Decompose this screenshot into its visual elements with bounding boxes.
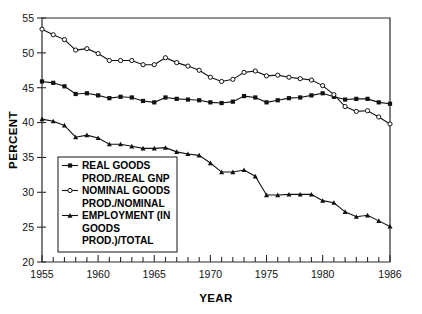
- data-point: [141, 63, 145, 67]
- data-point: [208, 100, 212, 104]
- data-point: [62, 38, 66, 42]
- data-point: [85, 91, 89, 95]
- data-point: [118, 95, 122, 99]
- data-point: [96, 93, 100, 97]
- data-point: [354, 97, 358, 101]
- y-tick-label: 55: [22, 12, 34, 24]
- y-tick-label: 25: [22, 221, 34, 233]
- data-point: [253, 174, 258, 179]
- data-point: [253, 95, 257, 99]
- data-point: [163, 56, 167, 60]
- data-point: [152, 100, 156, 104]
- data-point: [107, 96, 111, 100]
- data-point: [276, 98, 280, 102]
- x-tick-label: 1975: [255, 268, 279, 280]
- data-point: [298, 77, 302, 81]
- data-point: [388, 102, 392, 106]
- data-point: [208, 75, 212, 79]
- data-point: [365, 109, 369, 113]
- legend-marker-open-circle: [68, 188, 72, 192]
- x-tick-label: 1965: [143, 268, 167, 280]
- x-tick-label: 1960: [86, 268, 110, 280]
- data-point: [264, 74, 268, 78]
- data-point: [175, 61, 179, 65]
- data-point: [343, 97, 347, 101]
- series-2: [40, 27, 392, 126]
- data-point: [186, 97, 190, 101]
- series-1: [40, 79, 392, 106]
- data-point: [242, 70, 246, 74]
- data-point: [118, 58, 122, 62]
- legend-marker-filled-square: [68, 163, 72, 167]
- data-point: [74, 92, 78, 96]
- data-point: [85, 47, 89, 51]
- series-line: [42, 29, 390, 124]
- legend: REAL GOODSPROD./REAL GNPNOMINAL GOODSPRO…: [58, 157, 177, 252]
- y-axis-title: PERCENT: [7, 111, 19, 169]
- data-point: [220, 79, 224, 83]
- y-tick-label: 45: [22, 82, 34, 94]
- data-point: [287, 96, 291, 100]
- data-point: [377, 100, 381, 104]
- y-tick-label: 30: [22, 186, 34, 198]
- data-point: [51, 81, 55, 85]
- data-point: [253, 69, 257, 73]
- x-tick-label: 1955: [30, 268, 54, 280]
- data-point: [276, 73, 280, 77]
- data-point: [354, 109, 358, 113]
- data-point: [40, 79, 44, 83]
- data-point: [186, 64, 190, 68]
- x-tick-label: 1980: [311, 268, 335, 280]
- data-point: [298, 95, 302, 99]
- legend-label: REAL GOODS: [82, 160, 151, 171]
- data-point: [130, 58, 134, 62]
- data-point: [231, 77, 235, 81]
- data-point: [51, 33, 55, 37]
- y-tick-label: 20: [22, 256, 34, 268]
- legend-label: NOMINAL GOODS: [82, 185, 170, 196]
- x-tick-label: 1970: [199, 268, 223, 280]
- data-point: [197, 68, 201, 72]
- data-point: [175, 97, 179, 101]
- data-point: [377, 115, 381, 119]
- x-axis-title: YEAR: [199, 292, 233, 304]
- data-point: [388, 122, 392, 126]
- data-point: [74, 48, 78, 52]
- data-point: [321, 84, 325, 88]
- data-point: [365, 97, 369, 101]
- data-point: [264, 100, 268, 104]
- data-point: [107, 58, 111, 62]
- line-chart: 2025303540455055195519601965197019751980…: [0, 0, 422, 314]
- y-tick-label: 50: [22, 47, 34, 59]
- data-point: [96, 51, 100, 55]
- data-point: [152, 63, 156, 67]
- data-point: [197, 98, 201, 102]
- y-tick-label: 35: [22, 151, 34, 163]
- data-point: [242, 94, 246, 98]
- data-point: [388, 224, 393, 229]
- legend-label: PROD./REAL GNP: [82, 173, 170, 184]
- data-point: [220, 101, 224, 105]
- data-point: [130, 95, 134, 99]
- data-point: [141, 99, 145, 103]
- y-tick-label: 40: [22, 116, 34, 128]
- data-point: [376, 218, 381, 223]
- chart-container: 2025303540455055195519601965197019751980…: [0, 0, 422, 314]
- series-line: [42, 81, 390, 103]
- legend-label: GOODS: [82, 223, 120, 234]
- data-point: [163, 95, 167, 99]
- data-point: [62, 84, 66, 88]
- legend-label: PROD.)/TOTAL: [82, 235, 154, 246]
- data-point: [231, 100, 235, 104]
- data-point: [287, 75, 291, 79]
- data-point: [343, 104, 347, 108]
- data-point: [309, 93, 313, 97]
- legend-label: PROD./NOMINAL: [82, 198, 165, 209]
- x-tick-label: 1986: [378, 268, 402, 280]
- data-point: [309, 78, 313, 82]
- data-point: [321, 91, 325, 95]
- data-point: [332, 93, 336, 97]
- legend-label: EMPLOYMENT (IN: [82, 210, 170, 221]
- data-point: [40, 27, 44, 31]
